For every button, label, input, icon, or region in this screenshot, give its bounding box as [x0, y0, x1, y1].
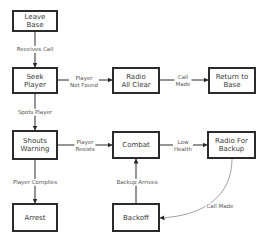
- edge-label-player-resists: Player Resists: [74, 139, 95, 152]
- edge-label-call-made-top: Call Made: [175, 74, 192, 87]
- flowchart-canvas: Leave Base Seek Player Radio All Clear R…: [0, 0, 262, 240]
- node-label: Combat: [122, 141, 149, 149]
- edge-label-low-health: Low Health: [173, 139, 193, 152]
- node-return-to-base[interactable]: Return to Base: [208, 67, 256, 94]
- node-label: Radio For Backup: [215, 137, 248, 153]
- edge-label-backup-arrives: Backup Arrives: [115, 179, 158, 186]
- node-combat[interactable]: Combat: [112, 131, 160, 159]
- node-label: Radio All Clear: [121, 73, 150, 89]
- edge-label-player-complies: Player Complies: [12, 179, 58, 186]
- node-arrest[interactable]: Arrest: [12, 203, 58, 232]
- node-label: Shouts Warning: [21, 137, 50, 153]
- node-leave-base[interactable]: Leave Base: [12, 10, 58, 32]
- node-radio-all-clear[interactable]: Radio All Clear: [112, 67, 160, 94]
- edge-label-spots-player: Spots Player: [17, 109, 53, 116]
- node-label: Leave Base: [16, 13, 54, 29]
- node-seek-player[interactable]: Seek Player: [12, 67, 58, 94]
- node-label: Arrest: [25, 214, 46, 222]
- edge-label-receives-call: Receives Call: [16, 46, 54, 53]
- edge-label-call-made-bottom: Call Made: [205, 203, 234, 210]
- node-label: Return to Base: [216, 73, 248, 89]
- node-shouts-warning[interactable]: Shouts Warning: [12, 130, 58, 160]
- node-radio-for-backup[interactable]: Radio For Backup: [207, 131, 256, 159]
- node-backoff[interactable]: Backoff: [112, 203, 160, 232]
- node-label: Backoff: [123, 214, 149, 222]
- edge-label-player-not-found: Player Not Found: [69, 75, 99, 88]
- node-label: Seek Player: [24, 73, 46, 89]
